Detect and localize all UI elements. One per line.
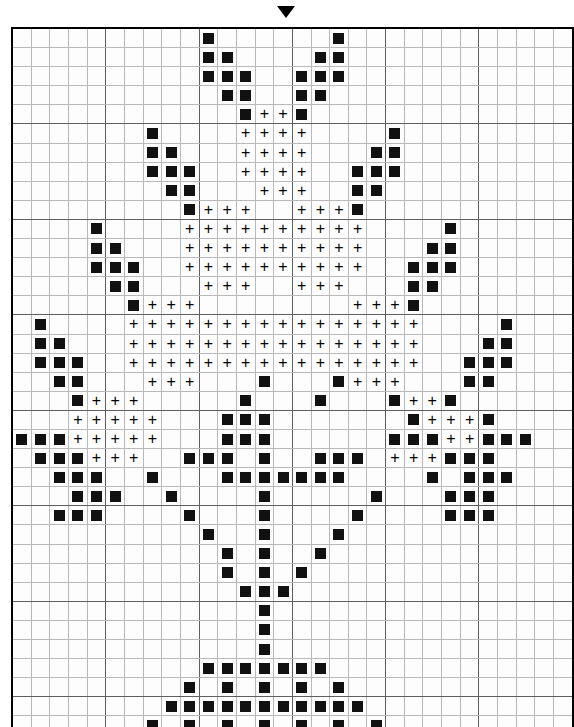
grid-cell-square[interactable] [423, 429, 442, 448]
grid-cell-empty[interactable] [274, 410, 293, 429]
grid-cell-empty[interactable] [442, 525, 461, 544]
grid-cell-square[interactable] [218, 449, 237, 468]
grid-cell-empty[interactable] [274, 372, 293, 391]
grid-cell-plus[interactable]: + [143, 296, 162, 315]
grid-cell-plus[interactable]: + [292, 353, 311, 372]
grid-cell-empty[interactable] [311, 372, 330, 391]
grid-cell-empty[interactable] [554, 391, 572, 410]
grid-cell-empty[interactable] [274, 449, 293, 468]
grid-cell-square[interactable] [423, 468, 442, 487]
grid-cell-plus[interactable]: + [274, 334, 293, 353]
grid-cell-square[interactable] [255, 716, 274, 727]
grid-cell-empty[interactable] [367, 544, 386, 563]
grid-cell-plus[interactable]: + [330, 258, 349, 277]
grid-cell-empty[interactable] [498, 640, 517, 659]
grid-cell-empty[interactable] [143, 601, 162, 620]
grid-cell-square[interactable] [106, 277, 125, 296]
grid-cell-square[interactable] [87, 506, 106, 525]
grid-cell-empty[interactable] [292, 449, 311, 468]
grid-cell-empty[interactable] [404, 678, 423, 697]
grid-cell-empty[interactable] [106, 143, 125, 162]
grid-cell-empty[interactable] [479, 258, 498, 277]
grid-cell-empty[interactable] [330, 143, 349, 162]
grid-cell-empty[interactable] [367, 410, 386, 429]
grid-cell-empty[interactable] [274, 391, 293, 410]
grid-cell-empty[interactable] [106, 601, 125, 620]
grid-cell-empty[interactable] [516, 563, 535, 582]
grid-cell-empty[interactable] [162, 601, 181, 620]
grid-cell-square[interactable] [199, 525, 218, 544]
grid-cell-empty[interactable] [199, 506, 218, 525]
grid-cell-plus[interactable]: + [442, 429, 461, 448]
grid-cell-empty[interactable] [31, 277, 50, 296]
grid-cell-empty[interactable] [554, 239, 572, 258]
grid-cell-plus[interactable]: + [236, 219, 255, 238]
grid-cell-square[interactable] [311, 449, 330, 468]
grid-cell-empty[interactable] [404, 143, 423, 162]
grid-cell-square[interactable] [274, 468, 293, 487]
grid-cell-square[interactable] [68, 468, 87, 487]
grid-cell-square[interactable] [50, 449, 69, 468]
grid-cell-square[interactable] [404, 296, 423, 315]
grid-cell-square[interactable] [479, 410, 498, 429]
cross-stitch-chart-grid[interactable]: ++++++++++++++++++++++++++++++++++++++++… [11, 27, 574, 727]
grid-cell-empty[interactable] [162, 239, 181, 258]
grid-cell-square[interactable] [87, 219, 106, 238]
grid-cell-empty[interactable] [292, 544, 311, 563]
grid-cell-empty[interactable] [348, 48, 367, 67]
grid-cell-empty[interactable] [199, 410, 218, 429]
grid-cell-plus[interactable]: + [162, 334, 181, 353]
grid-cell-plus[interactable]: + [143, 315, 162, 334]
grid-cell-empty[interactable] [330, 506, 349, 525]
grid-cell-empty[interactable] [423, 620, 442, 639]
grid-cell-empty[interactable] [106, 48, 125, 67]
grid-cell-empty[interactable] [68, 67, 87, 86]
grid-cell-square[interactable] [31, 429, 50, 448]
grid-cell-empty[interactable] [367, 697, 386, 716]
grid-cell-empty[interactable] [535, 697, 554, 716]
grid-cell-plus[interactable]: + [199, 315, 218, 334]
grid-cell-empty[interactable] [106, 296, 125, 315]
grid-cell-square[interactable] [31, 353, 50, 372]
grid-cell-empty[interactable] [330, 391, 349, 410]
grid-cell-square[interactable] [180, 200, 199, 219]
grid-cell-empty[interactable] [311, 582, 330, 601]
grid-cell-empty[interactable] [199, 582, 218, 601]
grid-cell-square[interactable] [367, 487, 386, 506]
grid-cell-empty[interactable] [423, 124, 442, 143]
grid-cell-empty[interactable] [330, 124, 349, 143]
grid-cell-empty[interactable] [442, 353, 461, 372]
grid-cell-empty[interactable] [68, 334, 87, 353]
grid-cell-empty[interactable] [50, 697, 69, 716]
grid-cell-empty[interactable] [31, 410, 50, 429]
grid-cell-empty[interactable] [423, 200, 442, 219]
grid-cell-plus[interactable]: + [292, 258, 311, 277]
grid-cell-empty[interactable] [479, 678, 498, 697]
grid-cell-plus[interactable]: + [255, 258, 274, 277]
grid-cell-empty[interactable] [367, 582, 386, 601]
grid-cell-empty[interactable] [535, 678, 554, 697]
grid-cell-empty[interactable] [498, 181, 517, 200]
grid-cell-empty[interactable] [31, 143, 50, 162]
grid-cell-plus[interactable]: + [292, 200, 311, 219]
grid-cell-plus[interactable]: + [274, 219, 293, 238]
grid-cell-square[interactable] [311, 86, 330, 105]
grid-cell-empty[interactable] [348, 544, 367, 563]
grid-cell-empty[interactable] [386, 181, 405, 200]
grid-cell-empty[interactable] [554, 697, 572, 716]
grid-cell-empty[interactable] [535, 372, 554, 391]
grid-cell-empty[interactable] [535, 563, 554, 582]
grid-cell-empty[interactable] [199, 601, 218, 620]
grid-cell-empty[interactable] [423, 29, 442, 48]
grid-cell-empty[interactable] [292, 429, 311, 448]
grid-cell-square[interactable] [50, 334, 69, 353]
grid-cell-empty[interactable] [87, 620, 106, 639]
grid-cell-empty[interactable] [68, 716, 87, 727]
grid-cell-empty[interactable] [516, 678, 535, 697]
grid-cell-empty[interactable] [106, 678, 125, 697]
grid-cell-empty[interactable] [274, 29, 293, 48]
grid-cell-empty[interactable] [442, 640, 461, 659]
grid-cell-empty[interactable] [218, 525, 237, 544]
grid-cell-square[interactable] [311, 544, 330, 563]
grid-cell-empty[interactable] [199, 487, 218, 506]
